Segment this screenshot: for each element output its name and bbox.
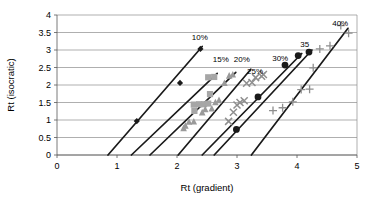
y-tick-label: 4 [46, 10, 51, 20]
x-tick-label: 2 [174, 161, 179, 171]
series-annotation-10: 10% [192, 33, 208, 42]
data-point [216, 97, 223, 104]
y-tick-label: 0 [46, 150, 51, 160]
y-tick-label: 2 [46, 80, 51, 90]
y-tick-label: 1 [46, 115, 51, 125]
data-point [207, 91, 213, 97]
data-point [306, 85, 314, 93]
data-point [205, 74, 211, 80]
y-tick-label: 0.5 [38, 133, 51, 143]
scatter-plot: 00.511.522.533.54012345 10%15%20%25%30%3… [0, 0, 373, 197]
series-annotation-15: 15% [213, 55, 229, 64]
series-annotation-25: 25% [247, 67, 263, 76]
chart-root: 00.511.522.533.54012345 10%15%20%25%30%3… [0, 0, 373, 197]
series-35 [306, 49, 313, 56]
y-tick-label: 2.5 [38, 63, 51, 73]
x-tick-label: 1 [114, 161, 119, 171]
y-axis-title: Rt (isocratic) [5, 58, 16, 111]
data-point [233, 126, 240, 133]
data-point [211, 74, 217, 80]
data-point [191, 102, 197, 108]
data-point [316, 45, 324, 53]
y-tick-label: 3.5 [38, 28, 51, 38]
x-tick-label: 0 [54, 161, 59, 171]
data-point [191, 118, 198, 125]
y-tick-label: 3 [46, 45, 51, 55]
data-point [255, 94, 262, 101]
series-40 [269, 22, 353, 115]
series-annotation-20: 20% [234, 55, 250, 64]
data-point [282, 62, 289, 69]
fit-lines-group [108, 28, 348, 155]
x-tick-label: 5 [354, 161, 359, 171]
x-axis-title: Rt (gradient) [181, 182, 234, 193]
data-point [225, 118, 232, 125]
x-tick-label: 4 [294, 161, 299, 171]
x-tick-label: 3 [234, 161, 239, 171]
series-annotation-40: 40% [332, 19, 348, 28]
data-point [230, 109, 237, 116]
data-point [295, 52, 302, 59]
data-point [306, 49, 313, 56]
data-point [269, 107, 277, 115]
y-tick-label: 1.5 [38, 98, 51, 108]
data-point [191, 108, 197, 114]
series-annotation-35: 35 [300, 40, 309, 49]
axis-titles-group: Rt (gradient)Rt (isocratic) [5, 58, 233, 193]
data-point [205, 100, 211, 106]
series-annotation-30: 30% [272, 54, 288, 63]
